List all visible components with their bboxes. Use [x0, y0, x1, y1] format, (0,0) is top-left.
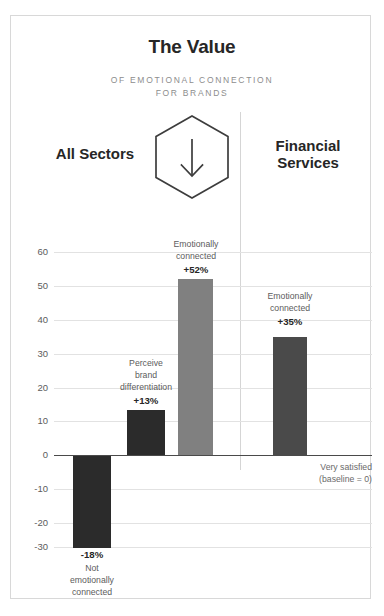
ytick-label-0: 0: [14, 449, 48, 460]
ytick-label-50: 50: [14, 280, 48, 291]
bar-label-emotionally-connected-financial: Emotionally connected +35%: [245, 290, 335, 328]
bar-label-emotionally-connected-all-sectors: Emotionally connected +52%: [151, 238, 241, 276]
baseline-line-2: (baseline = 0): [319, 474, 372, 484]
bar-label-not-emotionally-connected: -18% Not emotionally connected: [47, 549, 137, 598]
label-line-3: connected: [72, 587, 112, 597]
gridline-50: [54, 286, 372, 287]
label-line-1: Emotionally: [174, 239, 219, 249]
plot-area: 60 50 40 30 20 10 0 -10 -20 -30 Emotiona…: [0, 0, 384, 616]
ytick-label-minus20: -20: [14, 517, 48, 528]
baseline-line-1: Very satisfied: [320, 462, 372, 472]
ytick-label-20: 20: [14, 382, 48, 393]
bar-label-perceive-brand-differentiation: Perceive brand differentiation +13%: [101, 357, 191, 407]
label-line-2: brand: [135, 370, 157, 380]
bar-not-emotionally-connected[interactable]: [73, 456, 111, 548]
label-line-1: Perceive: [129, 358, 163, 368]
value-label: +35%: [245, 316, 335, 328]
label-line-2: connected: [176, 251, 216, 261]
label-line-1: Emotionally: [268, 291, 313, 301]
ytick-label-30: 30: [14, 348, 48, 359]
gridline-10: [54, 421, 372, 422]
chart-canvas: The Value OF EMOTIONAL CONNECTION FOR BR…: [0, 0, 384, 616]
ytick-label-minus30: -30: [14, 541, 48, 552]
value-label: +52%: [151, 264, 241, 276]
value-label: +13%: [101, 395, 191, 407]
gridline-30: [54, 354, 372, 355]
ytick-label-60: 60: [14, 246, 48, 257]
label-line-3: differentiation: [120, 382, 172, 392]
label-line-2: emotionally: [70, 575, 114, 585]
ytick-label-minus10: -10: [14, 483, 48, 494]
ytick-label-10: 10: [14, 415, 48, 426]
bar-perceive-brand-differentiation[interactable]: [127, 410, 165, 455]
value-label: -18%: [47, 549, 137, 561]
ytick-label-40: 40: [14, 314, 48, 325]
bar-emotionally-connected-financial[interactable]: [273, 337, 307, 455]
label-line-2: connected: [270, 303, 310, 313]
label-line-1: Not: [85, 563, 99, 573]
baseline-annotation: Very satisfied (baseline = 0): [232, 461, 372, 485]
